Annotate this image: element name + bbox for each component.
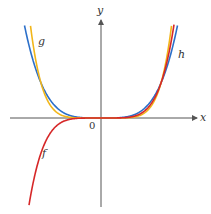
curve-label-f: f	[41, 147, 48, 160]
curve-label-g: g	[38, 35, 45, 48]
power-functions-diagram: x y 0 g h f	[0, 0, 211, 214]
y-axis-label: y	[96, 4, 104, 17]
curve-label-h: h	[178, 48, 185, 61]
origin-label: 0	[89, 120, 95, 131]
x-axis-label: x	[200, 111, 207, 124]
